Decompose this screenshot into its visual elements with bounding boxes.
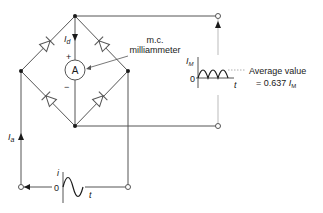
input-arrow-icon (24, 184, 30, 190)
output-arrow-icon (215, 21, 221, 28)
output-zero-label: 0 (190, 74, 195, 84)
output-terminal-bottom (216, 124, 221, 129)
average-value-label: = 0.637 IM (256, 78, 296, 89)
dc-current-label: Id (64, 34, 72, 45)
output-time-label: t (234, 80, 237, 90)
minus-sign: − (64, 82, 69, 92)
node-top (73, 14, 77, 18)
ac-current-arrow-icon (18, 133, 24, 140)
node-bottom (73, 124, 77, 128)
output-waveform (196, 57, 246, 88)
diode-bottom-right (92, 92, 108, 108)
meter-callout-arrow-icon (86, 65, 91, 70)
input-zero-label: 0 (54, 183, 59, 193)
input-time-label: t (89, 190, 92, 200)
dc-current-arrow-icon (72, 34, 78, 41)
node-right (126, 69, 130, 73)
input-terminal-left (19, 185, 24, 190)
bridge-rectifier-diagram: A + − Id m.c. milliammeter Ia IM 0 t Ave… (0, 0, 323, 213)
meter-type-label: m.c. (147, 35, 164, 45)
plus-sign: + (66, 52, 71, 62)
ammeter-label: A (72, 65, 79, 76)
ac-current-label: Ia (8, 132, 15, 143)
node-left (19, 69, 23, 73)
input-current-label: i (57, 168, 60, 178)
input-waveform (63, 172, 83, 203)
meter-name-label: milliammeter (129, 45, 180, 55)
output-terminal-top (216, 14, 221, 19)
meter-callout-line (88, 56, 128, 68)
input-terminal-right (126, 185, 131, 190)
average-label: Average value (249, 66, 306, 76)
output-peak-label: IM (186, 56, 194, 67)
